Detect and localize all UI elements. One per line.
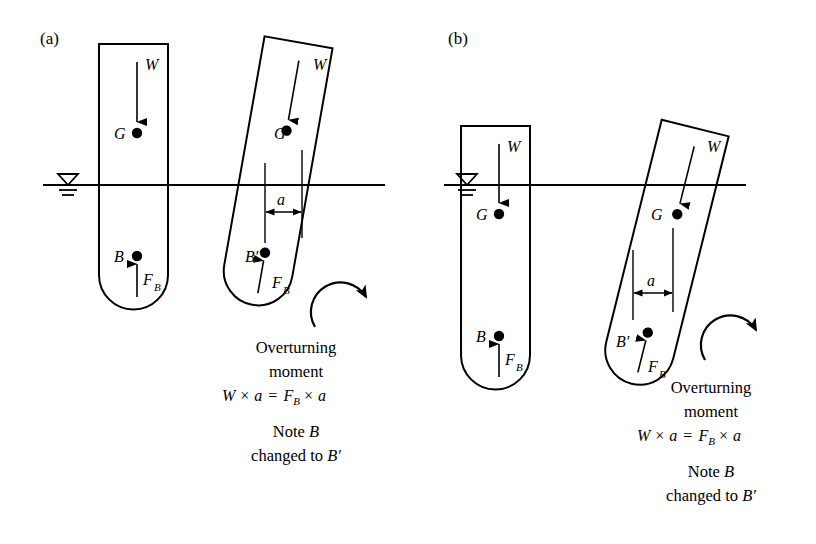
panel-a-upright-gravity-center-label: G (114, 125, 126, 142)
panel-b-upright-floating-body (461, 126, 530, 390)
panel-a-tilted-weight-vector (288, 61, 298, 120)
panel-a-upright-buoyancy-vector: F B (137, 264, 161, 297)
panel-a-tilted-floating-body (218, 36, 332, 310)
panel-b-tilted-gravity-center-dot (671, 208, 684, 221)
panel-b-upright-gravity-center-dot (494, 209, 504, 219)
eq-b-a2: a (733, 427, 741, 444)
panel-a-annotation: Overturning moment W×a=FB×a Note B chang… (222, 338, 341, 465)
panel-b-tilted-buoyancy-center-dot (641, 326, 654, 339)
panel-b-tilted-gravity-center-label: G (651, 206, 663, 223)
eq-b-equals: = (683, 427, 692, 444)
panel-b-tilted-buoyancy-center-label: B′ (616, 333, 630, 350)
eq-a-a1: a (254, 387, 262, 404)
eq-b-a1: a (669, 427, 677, 444)
panel-b-tilted-buoyant-force-label: F (647, 358, 658, 375)
panel-b-equation: W×a=FB×a (637, 427, 741, 447)
panel-a-note-line2: changed to B′ (251, 446, 341, 465)
panel-b-note-prefix2: changed to (666, 486, 742, 505)
panel-b: (b) W G F B B (444, 29, 756, 505)
panel-a: (a) W G F B B (40, 29, 385, 465)
svg-text:W×a=FB×a: W×a=FB×a (637, 427, 741, 447)
panel-a-clockwise-rotation-arrow (311, 282, 366, 327)
eq-b-f: F (697, 427, 708, 444)
panel-a-lever-arm-label: a (277, 191, 285, 208)
panel-a-tilted-buoyancy-center-label: B′ (245, 248, 259, 265)
panel-b-upright-buoyant-force-subscript: B (516, 361, 523, 373)
panel-b-lever-arm-dimension: a (633, 228, 673, 320)
panel-a-upright-buoyant-force-label: F (142, 271, 153, 288)
eq-b-w: W (637, 427, 652, 444)
panel-a-tilted-gravity-center-label: G (274, 125, 286, 142)
panel-a-equation: W×a=FB×a (222, 387, 326, 407)
panel-b-upright-buoyant-force-label: F (504, 351, 515, 368)
eq-b-times2: × (719, 427, 728, 444)
eq-a-f-sub: B (293, 395, 300, 407)
panel-a-annotation-line1: Overturning (256, 338, 337, 357)
panel-b-tilted-weight-vector (680, 146, 694, 203)
eq-a-equals: = (268, 387, 277, 404)
panel-a-tilted-weight-label: W (313, 56, 328, 73)
panel-a-label: (a) (40, 29, 59, 48)
panel-b-upright-buoyancy-vector: F B (499, 344, 523, 377)
eq-b-f-sub: B (708, 435, 715, 447)
panel-a-upright-weight-label: W (145, 56, 160, 73)
panel-b-upright-buoyancy-center-label: B (476, 328, 486, 345)
panel-b-note-symbol-bprime: B′ (742, 486, 756, 505)
panel-a-tilted-buoyancy-vector (258, 261, 264, 293)
panel-b-note-symbol-b: B (724, 462, 734, 481)
panel-a-note-prefix2: changed to (251, 446, 327, 465)
panel-b-tilted-floating-body (598, 120, 729, 392)
panel-b-tilted-buoyancy-vector (638, 340, 646, 372)
panel-a-note-symbol-b: B (309, 422, 319, 441)
panel-a-tilted-buoyant-force-label: F (271, 274, 282, 291)
panel-b-upright-gravity-center-label: G (476, 206, 488, 223)
panel-b-tilted-weight-label: W (707, 138, 722, 155)
panel-a-upright-buoyancy-center-dot (132, 251, 142, 261)
svg-text:W×a=FB×a: W×a=FB×a (222, 387, 326, 407)
panel-a-upright-weight-vector: W (137, 56, 160, 122)
eq-a-w: W (222, 387, 237, 404)
figure-root: (a) W G F B B (0, 0, 816, 544)
panel-b-clockwise-rotation-arrow (701, 315, 756, 360)
panel-b-note-prefix: Note (688, 462, 724, 481)
eq-a-a2: a (318, 387, 326, 404)
panel-a-upright-buoyant-force-subscript: B (154, 281, 161, 293)
panel-a-annotation-line2: moment (269, 362, 323, 381)
panel-b-note-line2: changed to B′ (666, 486, 756, 505)
panel-a-lever-arm-dimension: a (265, 150, 302, 243)
panel-b-lever-arm-label: a (647, 272, 655, 289)
panel-a-tilted-buoyancy-center-dot (259, 247, 271, 259)
panel-a-note-symbol-bprime: B′ (327, 446, 341, 465)
panel-b-annotation-line2: moment (684, 402, 738, 421)
panel-a-upright-floating-body (99, 44, 168, 309)
eq-a-times2: × (304, 387, 313, 404)
panel-b-upright-buoyancy-center-dot (494, 331, 504, 341)
panel-a-note-line1: Note B (273, 422, 319, 441)
panel-b-annotation: Overturning moment W×a=FB×a Note B chang… (637, 378, 756, 505)
diagram-canvas: (a) W G F B B (0, 0, 816, 544)
panel-a-tilted-buoyant-force-subscript: B (283, 284, 290, 296)
panel-b-label: (b) (448, 29, 468, 48)
panel-b-tilted-buoyant-force-subscript: B (659, 368, 666, 380)
eq-a-f: F (282, 387, 293, 404)
panel-b-upright-weight-vector: W (499, 138, 522, 203)
panel-b-annotation-line1: Overturning (671, 378, 752, 397)
panel-a-upright-buoyancy-center-label: B (114, 248, 124, 265)
eq-b-times1: × (655, 427, 664, 444)
panel-a-upright-gravity-center-dot (132, 128, 142, 138)
panel-b-note-line1: Note B (688, 462, 734, 481)
panel-b-upright-weight-label: W (507, 138, 522, 155)
panel-a-note-prefix: Note (273, 422, 309, 441)
eq-a-times1: × (240, 387, 249, 404)
